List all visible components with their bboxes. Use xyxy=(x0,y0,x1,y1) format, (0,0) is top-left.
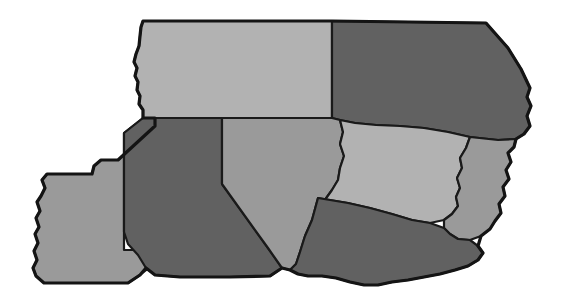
north-west-region[interactable] xyxy=(134,21,332,118)
regions-group xyxy=(33,21,531,285)
map-figure xyxy=(0,0,570,306)
map-svg xyxy=(0,0,570,306)
